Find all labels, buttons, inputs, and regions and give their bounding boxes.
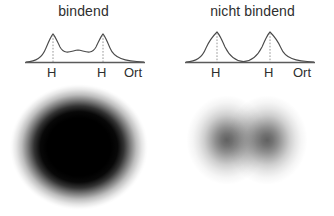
molecular-orbital-figure: bindend H H Ort nicht bindend H H O [0,0,334,216]
electron-density-clouds [0,78,334,216]
panel-antibonding: nicht bindend H H Ort [167,0,334,90]
density-curve-bonding [26,34,144,62]
density-curve-antibonding [186,32,314,62]
electron-cloud-antibonding-right [225,84,321,196]
electron-cloud-bonding [4,72,154,216]
